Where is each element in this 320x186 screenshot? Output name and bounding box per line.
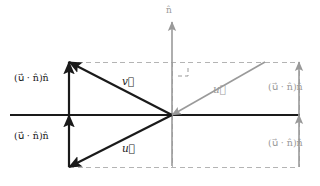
right-angle-marker: [178, 66, 188, 76]
v-vector: [69, 62, 172, 115]
projection-arrow-upper-right-label: (u⃗ · n̂)n̂: [268, 82, 303, 92]
vector-reflection-diagram: v⃗u⃗u⃗(u⃗ · n̂)n̂(u⃗ · n̂)n̂(u⃗ · n̂)n̂(…: [0, 0, 320, 186]
axes-layer: [10, 22, 300, 166]
projection-arrow-lower-right-label: (u⃗ · n̂)n̂: [268, 138, 303, 148]
u-vector-lower-left-label: u⃗: [122, 143, 135, 154]
normal-axis-label: n̂: [166, 6, 172, 15]
u-vector-right-label: u⃗: [213, 84, 226, 95]
right-angle-marker: [178, 66, 188, 76]
projection-arrow-upper-left-label: (u⃗ · n̂)n̂: [14, 73, 49, 83]
v-vector-label: v⃗: [122, 76, 134, 87]
diagram-canvas: [0, 0, 320, 186]
u-vector-lower-left: [69, 115, 172, 167]
projection-arrow-lower-left-label: (u⃗ · n̂)n̂: [14, 131, 49, 141]
